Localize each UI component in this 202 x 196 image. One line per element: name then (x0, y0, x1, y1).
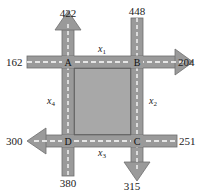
flow-d-in-bottom: 380 (60, 177, 77, 189)
flow-b-out-right: 204 (178, 56, 195, 68)
city-block (74, 68, 131, 135)
flow-d-out-left: 300 (6, 135, 23, 147)
node-c-label: C (134, 136, 141, 147)
flow-c-out-down: 315 (124, 180, 141, 192)
flow-b-in-top: 448 (129, 5, 146, 17)
node-a-label: A (64, 57, 72, 68)
edge-x2-label: x2 (148, 95, 157, 108)
flow-a-out-up: 422 (60, 7, 77, 19)
flow-c-in-right: 251 (179, 135, 196, 147)
traffic-network-diagram: A B C D 422 162 448 204 251 315 300 380 … (0, 0, 202, 196)
node-d-label: D (64, 136, 71, 147)
edge-x1-label: x1 (97, 43, 106, 56)
edge-x3-label: x3 (97, 147, 106, 160)
flow-a-in-left: 162 (6, 56, 23, 68)
arrow-down-icon (124, 162, 150, 181)
node-b-label: B (134, 57, 141, 68)
edge-x4-label: x4 (46, 95, 55, 108)
